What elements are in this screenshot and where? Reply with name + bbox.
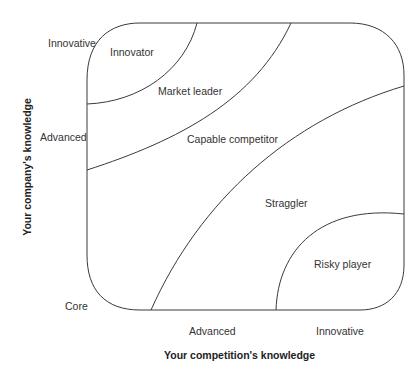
region-label-straggler: Straggler (265, 197, 308, 209)
region-label-market-leader: Market leader (158, 85, 222, 97)
x-tick-innovative: Innovative (316, 325, 364, 337)
y-tick-innovative: Innovative (48, 37, 96, 49)
region-label-risky-player: Risky player (314, 258, 371, 270)
region-label-capable-competitor: Capable competitor (187, 133, 278, 145)
x-tick-advanced: Advanced (189, 325, 236, 337)
x-axis-title: Your competition's knowledge (164, 349, 315, 361)
y-tick-advanced: Advanced (40, 131, 87, 143)
region-label-innovator: Innovator (110, 46, 154, 58)
knowledge-matrix-diagram (0, 0, 420, 372)
corner-tick-core: Core (65, 300, 88, 312)
y-axis-title: Your company's knowledge (21, 98, 33, 236)
